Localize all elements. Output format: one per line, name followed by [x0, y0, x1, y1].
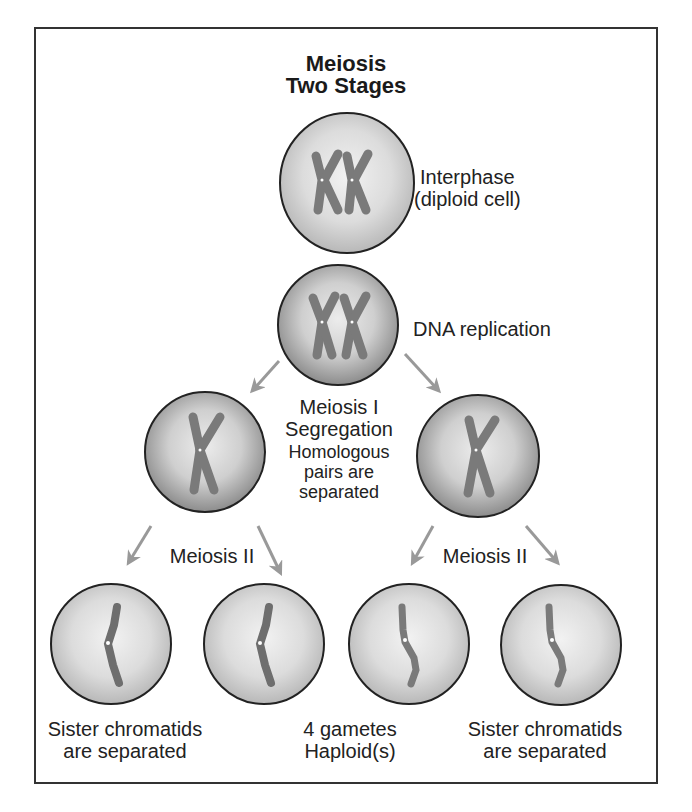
homologous-note-line2: pairs are	[277, 462, 401, 482]
diploid-cell-label: (diploid cell)	[414, 188, 521, 210]
arrow-icon	[129, 526, 151, 562]
bottom-left-label-line2: are separated	[40, 740, 210, 762]
bottom-center-label-line2: Haploid(s)	[275, 740, 425, 762]
replication-cell	[278, 265, 398, 385]
homologous-note-line1: Homologous	[277, 442, 401, 462]
gamete-cell-2	[204, 584, 324, 704]
interphase-label: Interphase	[420, 166, 515, 188]
homologous-note-line3: separated	[277, 482, 401, 502]
gamete-cell-1	[51, 584, 171, 704]
dna-replication-label: DNA replication	[413, 318, 551, 340]
arrow-icon	[253, 361, 279, 390]
bottom-left-label-line1: Sister chromatids	[40, 718, 210, 740]
meiosis2-right-label: Meiosis II	[425, 545, 545, 567]
gamete-cell-4	[501, 585, 621, 705]
meiosis1-left-cell	[145, 392, 265, 512]
interphase-cell	[280, 113, 414, 253]
bottom-center-label-line1: 4 gametes	[275, 718, 425, 740]
segregation-label: Segregation	[277, 418, 401, 440]
bottom-right-label-line2: are separated	[450, 740, 640, 762]
meiosis1-label: Meiosis I	[277, 396, 401, 418]
arrow-icon	[405, 354, 438, 390]
meiosis1-right-cell	[417, 395, 539, 517]
meiosis2-left-label: Meiosis II	[152, 545, 272, 567]
gamete-cell-3	[349, 584, 469, 704]
bottom-right-label-line1: Sister chromatids	[450, 718, 640, 740]
meiosis-diagram: Meiosis Two Stages	[0, 0, 692, 812]
